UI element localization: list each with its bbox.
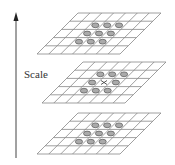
neighbor-sample [112,80,119,85]
neighbor-sample [99,39,106,44]
neighbor-sample [107,31,114,36]
sample-point-marker [101,81,107,85]
neighbor-sample [97,72,104,77]
neighbor-sample [75,39,82,44]
neighbor-sample [92,88,99,93]
neighbor-sample [87,139,94,144]
neighbor-sample [104,88,111,93]
neighbor-sample [89,80,96,85]
scale-axis-label: Scale [24,68,48,80]
neighbor-sample [120,72,127,77]
neighbor-sample [87,39,94,44]
neighbor-sample [75,139,82,144]
neighbor-sample [95,131,102,136]
scale-axis-arrow [14,12,19,158]
neighbor-sample [107,131,114,136]
neighbor-sample [109,72,116,77]
neighbor-sample [84,31,91,36]
level-bottom-grid [37,113,161,154]
neighbor-sample [92,123,99,128]
neighbor-sample [104,23,111,28]
level-middle-grid [42,62,166,103]
neighbor-sample [115,23,122,28]
neighbor-sample [115,123,122,128]
neighbor-sample [84,131,91,136]
neighbor-sample [104,123,111,128]
scale-space-diagram [0,0,175,165]
neighbor-sample [95,31,102,36]
neighbor-sample [99,139,106,144]
level-top-grid [37,13,161,54]
neighbor-sample [80,88,87,93]
neighbor-sample [92,23,99,28]
